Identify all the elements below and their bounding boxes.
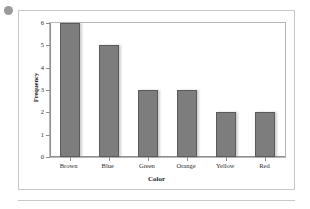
x-tick-label: Red <box>259 163 269 170</box>
x-tick-label: Orange <box>177 163 196 170</box>
figure-card: Frequency 0123456 BrownBlueGreenOrangeYe… <box>18 10 295 190</box>
x-tick-mark <box>265 157 266 161</box>
y-tick-label: 6 <box>41 20 44 27</box>
x-tick-label: Yellow <box>216 163 234 170</box>
bar <box>99 45 119 157</box>
y-tick-label: 4 <box>41 64 44 71</box>
plot-area: 0123456 <box>50 23 285 157</box>
y-axis-title: Frequency <box>32 68 39 108</box>
y-tick-mark <box>46 23 50 24</box>
x-axis-line <box>50 156 285 157</box>
x-tick-label: Brown <box>60 163 78 170</box>
y-tick-mark <box>46 68 50 69</box>
y-tick-label: 5 <box>41 42 44 49</box>
x-tick-label: Green <box>139 163 155 170</box>
x-tick-mark <box>70 157 71 161</box>
y-tick-label: 1 <box>41 131 44 138</box>
bar <box>216 112 236 157</box>
bar <box>255 112 275 157</box>
y-tick-label: 3 <box>41 87 44 94</box>
bullet-dot-icon <box>4 6 13 15</box>
bar <box>177 90 197 157</box>
x-tick-mark <box>187 157 188 161</box>
y-axis-line <box>50 23 51 157</box>
bar <box>138 90 158 157</box>
y-tick-label: 2 <box>41 109 44 116</box>
x-tick-mark <box>148 157 149 161</box>
y-tick-label: 0 <box>41 154 44 161</box>
y-tick-mark <box>46 90 50 91</box>
x-tick-mark <box>226 157 227 161</box>
plot-frame: 0123456 <box>49 22 286 158</box>
y-tick-mark <box>46 112 50 113</box>
y-tick-mark <box>46 135 50 136</box>
chart-page: Frequency 0123456 BrownBlueGreenOrangeYe… <box>0 0 310 209</box>
y-tick-mark <box>46 157 50 158</box>
x-axis-title: Color <box>19 175 294 183</box>
x-tick-mark <box>109 157 110 161</box>
x-tick-label: Blue <box>102 163 114 170</box>
bottom-divider <box>18 200 295 201</box>
bar <box>60 23 80 157</box>
y-tick-mark <box>46 45 50 46</box>
